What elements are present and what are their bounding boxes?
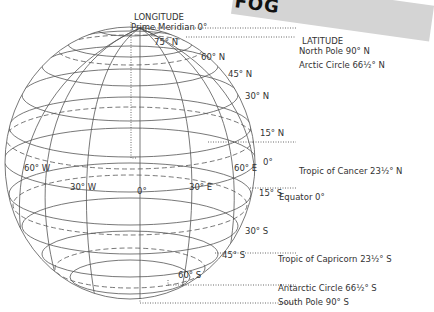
lon-label-30w: 30° W: [70, 182, 96, 192]
lon-label-30e: 30° E: [189, 182, 212, 192]
lat-label-45s: 45° S: [222, 250, 245, 260]
lat-label-45n: 45° N: [228, 69, 252, 79]
longitude-header: LONGITUDE: [134, 12, 184, 22]
lat-label-75n: 75° N: [154, 37, 178, 47]
callout-arctic-circle: Arctic Circle 66½° N: [299, 60, 385, 70]
latitude-header: LATITUDE: [302, 36, 343, 46]
lat-label-60s: 60° S: [178, 270, 201, 280]
lon-label-60e: 60° E: [234, 163, 257, 173]
lat-label-30s: 30° S: [245, 226, 268, 236]
lon-label-0: 0°: [137, 186, 147, 196]
lat-45n: [42, 46, 218, 86]
prime-meridian-label: Prime Meridian 0°: [131, 22, 207, 32]
callout-south-pole: South Pole 90° S: [278, 297, 349, 307]
callout-antarctic-circle: Antarctic Circle 66½° S: [278, 283, 377, 293]
lat-label-60n: 60° N: [201, 52, 225, 62]
callout-tropic-capricorn: Tropic of Capricorn 23½° S: [278, 254, 392, 264]
callout-equator: Equator 0°: [279, 192, 325, 202]
lat-label-15n: 15° N: [260, 128, 284, 138]
callout-tropic-cancer: Tropic of Cancer 23½° N: [299, 166, 402, 176]
lat-label-0: 0°: [263, 157, 273, 167]
callout-north-pole: North Pole 90° N: [299, 46, 370, 56]
lon-label-60w: 60° W: [24, 163, 50, 173]
lat-label-30n: 30° N: [245, 91, 269, 101]
lat-label-15s: 15° S: [259, 188, 282, 198]
